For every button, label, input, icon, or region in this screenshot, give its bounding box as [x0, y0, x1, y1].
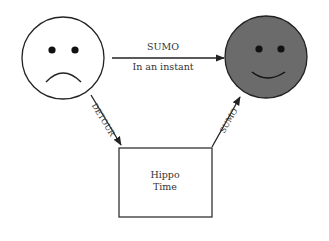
hippo-time-label-line2: Time: [153, 181, 177, 192]
happy-face-node: [225, 16, 307, 98]
edge-left-label: DETOUR: [90, 102, 117, 139]
edge-right-label: SUMO: [218, 106, 240, 134]
edge-top-label-above: SUMO: [147, 41, 179, 52]
sad-face-node: [22, 17, 104, 99]
edge-right: SUMO: [212, 97, 240, 147]
happy-face-left-eye-icon: [255, 45, 262, 52]
edge-top: SUMO In an instant: [112, 41, 224, 72]
sad-face-right-eye-icon: [71, 46, 78, 53]
happy-face-right-eye-icon: [277, 45, 284, 52]
diagram-canvas: SUMO In an instant DETOUR SUMO Hippo Tim…: [0, 0, 329, 241]
hippo-time-label-line1: Hippo: [150, 169, 179, 180]
edge-left: DETOUR: [90, 95, 121, 145]
hippo-time-node: Hippo Time: [119, 148, 212, 217]
sad-face-circle: [22, 17, 104, 99]
edge-top-label-below: In an instant: [132, 61, 193, 72]
sad-face-left-eye-icon: [48, 46, 55, 53]
happy-face-circle: [225, 16, 307, 98]
